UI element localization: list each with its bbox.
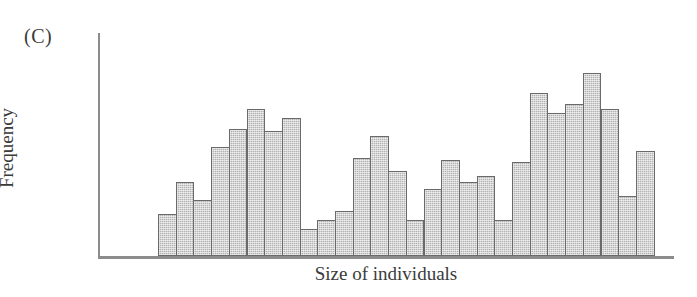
- x-axis-line: [98, 256, 674, 259]
- histogram-bar: [530, 93, 549, 256]
- histogram-bar: [636, 151, 655, 256]
- histogram-bar: [618, 196, 637, 256]
- histogram-bar: [583, 73, 602, 256]
- panel-letter: (C): [24, 26, 52, 46]
- histogram-bar: [547, 113, 566, 256]
- histogram-bar: [264, 131, 283, 256]
- histogram-bar: [158, 214, 177, 256]
- histogram-bar: [459, 182, 478, 256]
- histogram-bar: [424, 189, 443, 256]
- histogram-bar: [335, 211, 354, 256]
- histogram-bar: [441, 160, 460, 256]
- histogram-bar: [512, 162, 531, 256]
- histogram-bar: [388, 171, 407, 256]
- histogram-bar: [494, 220, 513, 256]
- histogram-bar: [317, 220, 336, 256]
- histogram-bar: [477, 176, 496, 256]
- histogram-bar: [406, 220, 425, 256]
- x-axis-title: Size of individuals: [98, 264, 674, 283]
- histogram-bar: [211, 147, 230, 256]
- histogram-bar: [193, 200, 212, 256]
- histogram-bar: [601, 109, 620, 256]
- histogram-bar: [565, 104, 584, 256]
- histogram-bar: [282, 118, 301, 256]
- histogram-bar: [176, 182, 195, 256]
- histogram-bar: [353, 158, 372, 256]
- y-axis-title: Frequency: [0, 78, 16, 218]
- histogram-bar: [370, 136, 389, 256]
- plot-area: [98, 33, 674, 259]
- histogram-bar: [247, 109, 266, 256]
- histogram-bar: [300, 229, 319, 256]
- figure-panel-c: (C) Frequency Size of individuals: [0, 0, 697, 297]
- bar-series: [98, 33, 674, 256]
- histogram-bar: [229, 129, 248, 256]
